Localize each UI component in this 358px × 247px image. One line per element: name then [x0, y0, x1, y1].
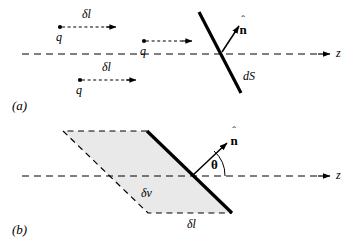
panel-a-normal-symbol: n	[236, 23, 250, 36]
panel-b-caption: (b)	[12, 223, 27, 236]
panel-a-surface-line	[199, 12, 241, 93]
panel-a-axis-label: z	[336, 47, 341, 59]
panel-a-charge-label-3: q	[76, 84, 82, 96]
panel-b-volume-parallelogram	[63, 131, 232, 213]
panel-a-charge-2	[142, 39, 192, 43]
panel-a-charge-label-2: q	[140, 45, 146, 57]
panel-a-displacement-label-3: δl	[102, 61, 111, 73]
panel-a-displacement-label-1: δl	[82, 8, 91, 20]
panel-b-angle-label: θ	[211, 158, 218, 171]
panel-b-normal-label: ˆ n	[227, 128, 241, 147]
panel-a-surface-label: dS	[243, 70, 255, 82]
diagram-canvas	[0, 0, 358, 247]
physics-diagram-figure: δl q q δl q ˆ n dS z (a) ˆ n θ δv δl z (…	[0, 0, 358, 247]
panel-a-charge-3	[78, 78, 136, 82]
panel-b-normal-symbol: n	[227, 134, 241, 147]
panel-b-volume-label: δv	[141, 187, 152, 199]
panel-b-length-label: δl	[187, 218, 196, 230]
panel-a-caption: (a)	[12, 99, 27, 112]
panel-b-normal-vector	[192, 143, 227, 176]
panel-a-normal-label: ˆ n	[236, 17, 250, 36]
panel-a-charge-label-1: q	[56, 31, 62, 43]
panel-b-axis-label: z	[336, 169, 341, 181]
panel-a-charge-1	[58, 25, 116, 29]
